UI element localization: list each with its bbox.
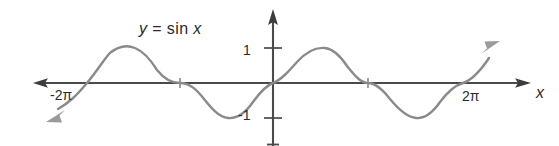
- x-axis-tick-label-2pi: 2π: [462, 89, 479, 103]
- sine-curve-left-arrowhead: [46, 110, 65, 123]
- x-axis-name-label: x: [536, 85, 544, 101]
- y-axis-tick-label-negative-1: -1: [238, 108, 250, 122]
- graph-canvas: [0, 0, 559, 146]
- sine-function-graph-figure: y = sin x 1 -1 -2π 2π x: [0, 0, 559, 146]
- y-axis-tick-label-1: 1: [243, 43, 251, 57]
- function-equation-label: y = sin x: [139, 21, 202, 37]
- x-axis-tick-label-negative-2pi: -2π: [50, 88, 72, 102]
- sine-curve-right-arrowhead: [481, 41, 500, 54]
- y-axis-group: [267, 9, 279, 146]
- function-label-x: x: [193, 20, 201, 37]
- function-label-equals-sin: = sin: [147, 20, 193, 37]
